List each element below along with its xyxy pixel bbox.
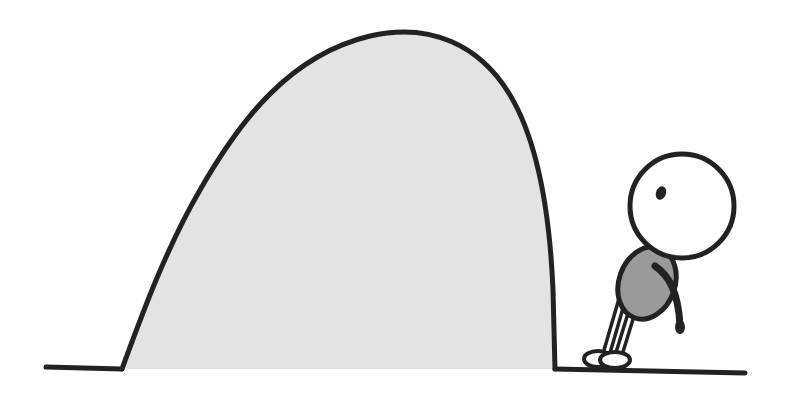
cartoon-illustration [0, 0, 790, 406]
hump-shape [122, 32, 555, 369]
figure-head [630, 154, 734, 258]
ground-line-right [555, 369, 745, 373]
stick-figure [584, 154, 734, 368]
ground-line-left [46, 367, 122, 369]
figure-hand [675, 320, 685, 334]
figure-foot-front [600, 352, 630, 368]
